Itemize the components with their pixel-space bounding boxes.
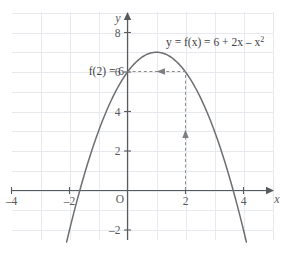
equation-annotation: y = f(x) = 6 + 2x – x2 (166, 35, 264, 49)
equation-annotation-superscript: 2 (260, 35, 264, 44)
y-tick-label: 4 (115, 106, 121, 118)
value-annotation: f(2) = 6 (89, 65, 124, 78)
y-tick-label: 8 (115, 27, 121, 39)
y-tick-label: 2 (115, 145, 121, 157)
parabola-plot: –6–4–2246 –22468 O x y y = f(x) = 6 + 2x… (0, 0, 285, 254)
y-axis-label: y (114, 11, 121, 25)
y-tick-label: –2 (108, 224, 121, 236)
equation-annotation-text: y = f(x) = 6 + 2x – x (166, 36, 260, 49)
x-tick-label: –2 (63, 195, 76, 207)
origin-label: O (116, 193, 124, 205)
x-tick-label: 4 (241, 195, 247, 207)
x-axis-label: x (273, 192, 280, 206)
x-tick-label: 2 (183, 195, 189, 207)
x-tick-label: –4 (5, 195, 18, 207)
chart-figure: –6–4–2246 –22468 O x y y = f(x) = 6 + 2x… (0, 0, 285, 254)
